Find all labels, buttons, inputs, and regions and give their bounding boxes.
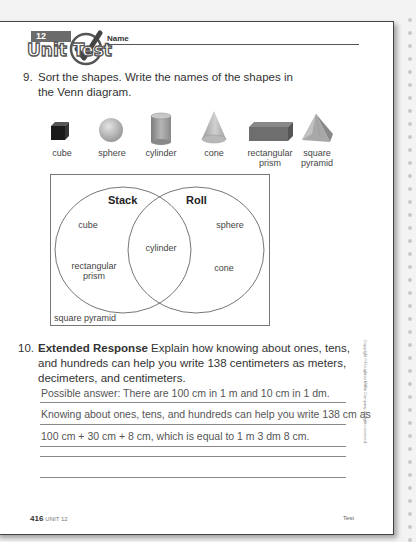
- name-label: Name: [107, 34, 129, 43]
- cylinder-icon: [149, 112, 173, 146]
- sphere-icon: [97, 116, 125, 144]
- venn-item-cone: cone: [206, 263, 242, 273]
- answer-line-1-text: Possible answer: There are 100 cm in 1 m…: [41, 387, 330, 399]
- question-9-number: 9.: [23, 70, 33, 85]
- answer-line-4[interactable]: [40, 456, 346, 457]
- answer-line-5[interactable]: [40, 477, 346, 478]
- answer-line-2-text: Knowing about ones, tens, and hundreds c…: [41, 408, 371, 420]
- cone-icon: [200, 109, 228, 145]
- cube-icon: [49, 120, 73, 144]
- venn-item-cylinder: cylinder: [140, 243, 182, 253]
- answer-line-3[interactable]: [40, 446, 346, 447]
- name-field[interactable]: [107, 44, 359, 45]
- question-10-line2: and hundreds can help you write 138 cent…: [38, 356, 346, 371]
- shape-label-cone: cone: [194, 148, 234, 158]
- unit-test-title: Unit Test: [27, 40, 112, 60]
- venn-stack-title: Stack: [108, 194, 137, 206]
- copyright-notice: Copyright © Houghton Mifflin Company. Al…: [363, 340, 368, 444]
- venn-item-square-pyramid: square pyramid: [54, 313, 124, 323]
- question-9-line1: Sort the shapes. Write the names of the …: [38, 70, 293, 85]
- venn-roll-title: Roll: [186, 194, 207, 206]
- shape-label-cube: cube: [44, 148, 80, 158]
- question-9-line2: the Venn diagram.: [38, 85, 131, 100]
- question-10-number: 10.: [18, 341, 34, 356]
- shape-label-rectangular-prism: rectangular prism: [244, 148, 296, 168]
- footer-test-label: Test: [343, 515, 354, 521]
- venn-item-rectangular-prism: rectangular prism: [64, 261, 124, 281]
- question-10-line3: decimeters, and centimeters.: [38, 371, 186, 386]
- answer-line-1[interactable]: [40, 402, 346, 403]
- shape-label-square-pyramid: square pyramid: [296, 148, 338, 168]
- extended-response-label: Extended Response: [38, 342, 148, 354]
- footer-page-number: 416UNIT 12: [30, 514, 68, 523]
- venn-item-sphere: sphere: [210, 220, 250, 230]
- answer-line-3-text: 100 cm + 30 cm + 8 cm, which is equal to…: [41, 430, 309, 442]
- answer-line-2[interactable]: [40, 424, 346, 425]
- rectangular-prism-icon: [248, 121, 294, 143]
- question-10-line1: Extended Response Explain how knowing ab…: [38, 341, 350, 356]
- shape-label-cylinder: cylinder: [140, 148, 182, 158]
- shape-label-sphere: sphere: [92, 148, 132, 158]
- binder-holes: [408, 14, 414, 542]
- square-pyramid-icon: [300, 112, 334, 144]
- venn-item-cube: cube: [68, 220, 108, 230]
